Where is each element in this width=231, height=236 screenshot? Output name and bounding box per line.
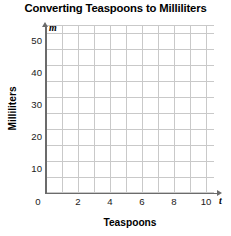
x-axis-title: Teaspoons [46,217,214,228]
x-tick-label: 4 [98,197,122,207]
x-tick-label: 6 [130,197,154,207]
x-tick-label: 2 [66,197,90,207]
chart-figure: Converting Teaspoons to Milliliters [0,0,231,236]
x-axis-tick-labels: 0 2 4 6 8 10 [0,0,231,236]
x-tick-label: 10 [194,197,218,207]
y-axis-title: Milliliters [7,59,18,159]
x-tick-label: 0 [26,197,50,207]
x-tick-label: 8 [162,197,186,207]
